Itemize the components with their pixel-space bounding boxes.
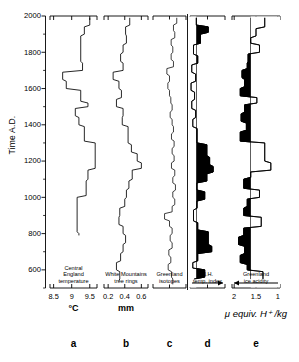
panel-letter-e: e <box>244 338 268 349</box>
y-axis-title: Time A.D. <box>7 99 17 171</box>
y-tick-label: 1800 <box>8 48 41 57</box>
y-tick-label: 800 <box>8 229 41 238</box>
x-tick-label-e: 1 <box>265 292 291 301</box>
x-axis-unit-b: mm <box>94 303 158 313</box>
panel-b <box>104 16 148 288</box>
series-line-b <box>113 18 141 281</box>
unfilled-mask-d <box>189 17 196 288</box>
x-axis-unit-e: μ equiv. H⁺ /kg <box>198 308 299 319</box>
panel-a <box>50 16 97 288</box>
y-axis <box>42 16 46 288</box>
panel-caption-e: Greenlandice acidity <box>218 271 294 284</box>
y-tick-label: 1000 <box>8 193 41 202</box>
panel-letter-c: c <box>158 338 182 349</box>
y-tick-label: 1600 <box>8 84 41 93</box>
y-tick-label: 2000 <box>8 11 41 20</box>
paleoclimate-multi-panel-figure: 200018001600140012001000800600Time A.D.C… <box>0 0 299 362</box>
series-line-a <box>63 18 96 236</box>
unfilled-mask-e <box>251 17 280 288</box>
series-line-c <box>165 18 177 285</box>
panel-letter-b: b <box>114 338 138 349</box>
panel-c <box>153 16 186 288</box>
panel-e <box>232 16 280 288</box>
panel-d <box>189 16 225 288</box>
x-tick-label-b: 0.6 <box>128 292 154 301</box>
panel-letter-d: d <box>196 338 220 349</box>
panel-letter-a: a <box>62 338 86 349</box>
